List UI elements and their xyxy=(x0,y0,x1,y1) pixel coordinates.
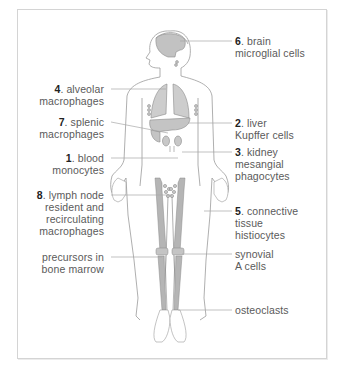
label-osteoclasts: osteoclasts xyxy=(235,304,325,316)
label-blood-monocytes: 1. blood monocytes xyxy=(36,152,104,176)
left-kidney-icon xyxy=(163,136,170,146)
label-kidney-mesangial-phagocytes: 3. kidney mesangial phagocytes xyxy=(235,146,325,182)
left-femur-icon xyxy=(155,178,166,252)
label-lymph-node-macrophages: 8. lymph node resident and recirculating… xyxy=(30,189,104,237)
label-splenic-macrophages: 7. splenic macrophages xyxy=(36,116,104,140)
brain-icon xyxy=(156,34,185,57)
left-hand-icon xyxy=(112,178,126,202)
label-alveolar-macrophages: 4. alveolar macrophages xyxy=(36,83,104,107)
label-liver-kupffer-cells: 2. liver Kupffer cells xyxy=(235,117,325,141)
right-lung-icon xyxy=(173,84,189,118)
label-synovial-a-cells: synovial A cells xyxy=(235,248,325,272)
label-precursors-bone-marrow: precursors in bone marrow xyxy=(30,251,104,275)
right-femur-icon xyxy=(174,178,185,252)
leader-lines xyxy=(111,41,232,310)
spleen-icon xyxy=(151,130,160,142)
lymph-node-dots xyxy=(163,184,176,197)
right-kidney-icon xyxy=(175,136,182,146)
liver-icon xyxy=(150,118,190,132)
right-foot-icon xyxy=(170,310,186,342)
left-foot-icon xyxy=(154,310,170,342)
label-connective-tissue-histiocytes: 5. connective tissue histiocytes xyxy=(235,205,325,241)
right-hand-icon xyxy=(214,178,228,202)
label-brain-microglial-cells: 6. brain microglial cells xyxy=(235,35,325,59)
